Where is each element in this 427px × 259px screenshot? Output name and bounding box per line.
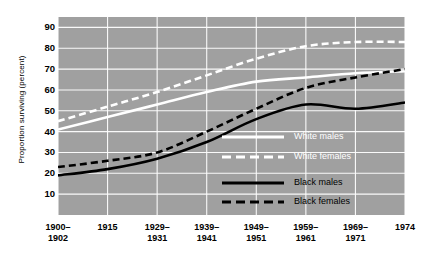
legend-label: Black females (294, 195, 350, 208)
legend-label: White males (294, 130, 344, 143)
x-tick-label: 1974 (395, 222, 415, 233)
legend-label: Black males (294, 176, 343, 189)
x-tick-label: 1939– 1941 (194, 222, 219, 243)
x-tick-label: 1929– 1931 (145, 222, 170, 243)
x-tick-label: 1915 (98, 222, 118, 233)
x-tick-label: 1900– 1902 (45, 222, 70, 243)
legend-swatch (222, 155, 284, 159)
x-tick-label: 1969– 1971 (343, 222, 368, 243)
legend-item: Black males (222, 176, 407, 190)
x-tick-label: 1959– 1961 (293, 222, 318, 243)
legend-swatch (222, 135, 284, 139)
legend-item: White males (222, 130, 407, 144)
chart-legend: White malesWhite femalesBlack malesBlack… (222, 130, 407, 208)
legend-swatch (222, 181, 284, 185)
legend-swatch (222, 200, 284, 204)
legend-label: White females (294, 150, 351, 163)
chart-figure: Proportion surviving (percent) 908070605… (0, 0, 427, 259)
legend-item: Black females (222, 195, 407, 209)
x-tick-label: 1949– 1951 (244, 222, 269, 243)
legend-item: White females (222, 150, 407, 164)
